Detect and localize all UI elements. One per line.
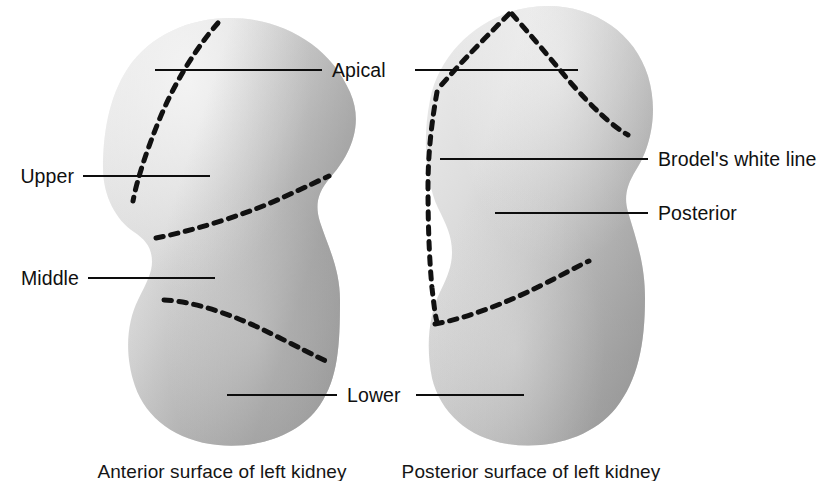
figure-canvas: Apical Upper Middle Lower Brodel's white… xyxy=(0,0,826,481)
label-lower: Lower xyxy=(347,384,401,406)
label-upper: Upper xyxy=(20,165,74,187)
label-brodels-white-line: Brodel's white line xyxy=(658,148,816,170)
caption-posterior-surface: Posterior surface of left kidney xyxy=(402,461,661,481)
label-posterior: Posterior xyxy=(658,202,737,224)
kidney-segmental-anatomy-figure: Apical Upper Middle Lower Brodel's white… xyxy=(0,0,826,481)
label-middle: Middle xyxy=(21,267,79,289)
caption-anterior-surface: Anterior surface of left kidney xyxy=(97,461,347,481)
label-apical: Apical xyxy=(332,59,386,81)
